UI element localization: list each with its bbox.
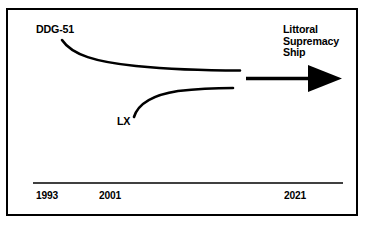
series-label-lx: LX (117, 116, 130, 128)
series-line-lx (134, 88, 233, 117)
axis-tick-label-2021: 2021 (284, 190, 306, 201)
annotation-label-line-1: Littoral (283, 24, 339, 36)
figure-canvas: DDG-51 LX Littoral Supremacy Ship 1993 2… (0, 0, 367, 225)
series-label-ddg51: DDG-51 (36, 24, 74, 36)
convergence-arrow-head (308, 65, 342, 92)
series-line-ddg51 (62, 40, 240, 71)
axis-tick-label-2001: 2001 (99, 190, 121, 201)
annotation-label-littoral-supremacy-ship: Littoral Supremacy Ship (283, 24, 339, 59)
axis-tick-label-1993: 1993 (36, 190, 58, 201)
annotation-label-line-3: Ship (283, 47, 339, 59)
